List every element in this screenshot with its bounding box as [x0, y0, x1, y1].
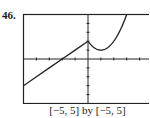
graph-window [0, 0, 149, 104]
linear-piece-curve [24, 41, 89, 85]
function-curves [24, 15, 127, 86]
axes [24, 15, 150, 104]
window-caption: [−5, 5] by [−5, 5] [23, 104, 149, 116]
parabola-piece-curve [88, 15, 127, 51]
